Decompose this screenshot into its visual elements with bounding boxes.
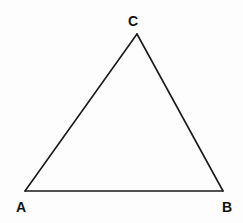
vertex-label-a: A	[16, 199, 26, 215]
vertex-label-c: C	[128, 13, 138, 29]
vertex-label-b: B	[222, 199, 232, 215]
edge-c-a	[25, 34, 137, 191]
triangle-svg: A B C	[0, 0, 243, 223]
triangle-diagram: A B C	[0, 0, 243, 223]
edge-b-c	[137, 34, 223, 191]
